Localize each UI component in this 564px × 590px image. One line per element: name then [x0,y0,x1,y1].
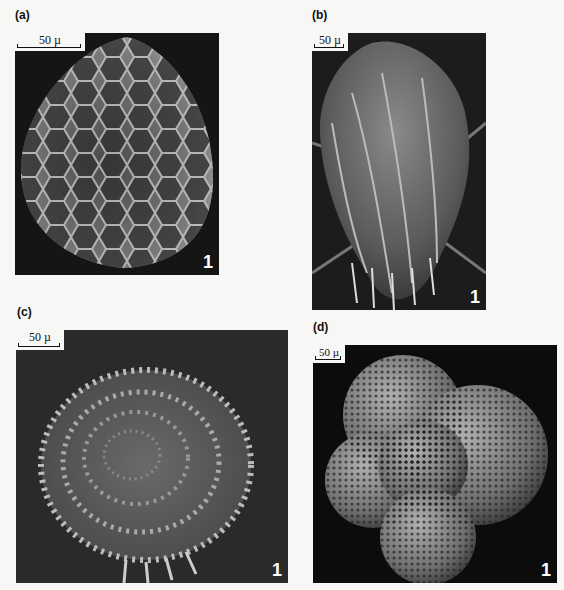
ribbed-fossil-graphic [312,33,486,310]
panel-a-label: (a) [15,8,30,22]
scale-bar-d: 50 µ [313,345,345,363]
honeycomb-fossil-graphic [15,33,219,275]
spiral-fossil-graphic [16,330,288,583]
scale-label-c: 50 µ [29,330,51,344]
figure-number-a: 1 [203,252,213,273]
figure-number-c: 1 [272,560,282,581]
panel-d-image: 50 µ 1 [313,345,557,583]
panel-d-label: (d) [313,320,328,334]
panel-b-label: (b) [312,8,327,22]
scale-bar-c: 50 µ [16,330,64,350]
panel-b-image: 50 µ 1 [312,33,486,310]
scale-bar-a: 50 µ [15,33,85,51]
figure-number-d: 1 [541,560,551,581]
panel-c-label: (c) [17,305,32,319]
figure-number-b: 1 [470,287,480,308]
panel-c-image: 50 µ 1 [16,330,288,583]
panel-a-image: 50 µ 1 [15,33,219,275]
chambered-fossil-graphic [313,345,557,583]
scale-bar-b: 50 µ [312,33,348,51]
